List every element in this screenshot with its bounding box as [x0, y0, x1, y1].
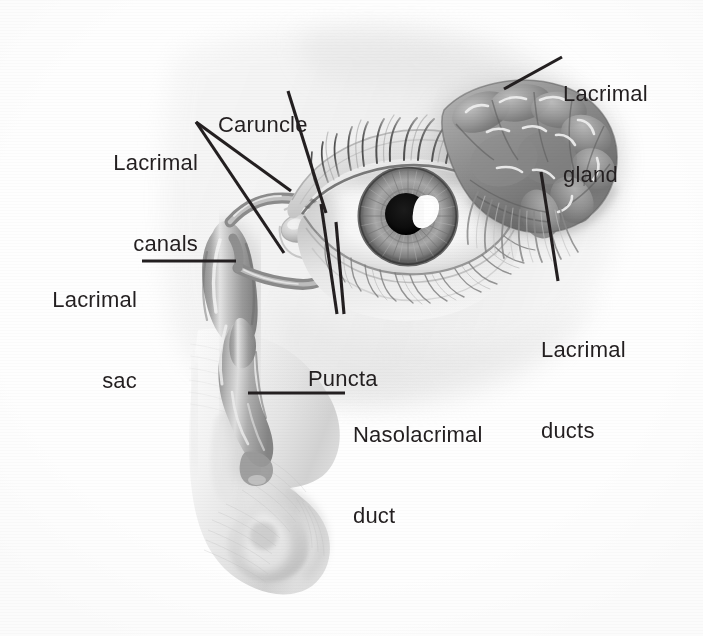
label-lacrimal-ducts-line2: ducts: [541, 417, 626, 444]
label-lacrimal-gland-line1: Lacrimal: [563, 80, 648, 107]
label-lacrimal-gland: Lacrimal gland: [563, 26, 648, 242]
label-caruncle: Caruncle: [218, 57, 308, 192]
label-nasolacrimal-duct-line1: Nasolacrimal: [353, 421, 483, 448]
label-lacrimal-sac-line1: Lacrimal: [0, 286, 137, 313]
label-lacrimal-gland-line2: gland: [563, 161, 648, 188]
lacrimal-apparatus-figure: Lacrimal gland Caruncle Lacrimal canals …: [0, 0, 703, 636]
label-lacrimal-ducts: Lacrimal ducts: [541, 282, 626, 498]
label-nasolacrimal-duct: Nasolacrimal duct: [353, 367, 483, 583]
label-lacrimal-ducts-line1: Lacrimal: [541, 336, 626, 363]
label-lacrimal-sac: Lacrimal sac: [0, 232, 137, 448]
label-nasolacrimal-duct-line2: duct: [353, 502, 483, 529]
label-caruncle-text: Caruncle: [218, 111, 308, 138]
label-lacrimal-sac-line2: sac: [0, 367, 137, 394]
label-lacrimal-canals-line1: Lacrimal: [48, 149, 198, 176]
